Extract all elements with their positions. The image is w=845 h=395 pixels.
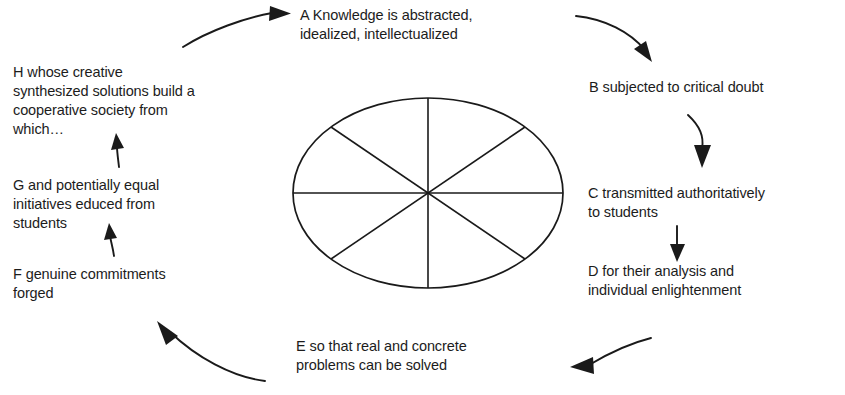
wheel-spoke-diagonal-nwse [331, 127, 525, 259]
node-label-h: H whose creative synthesized solutions b… [13, 63, 218, 140]
arrow-h-to-a [183, 6, 291, 47]
arrow-e-to-f-head [157, 321, 178, 345]
wheel-ellipse-outline [293, 98, 563, 288]
arrow-e-to-f [157, 321, 265, 381]
node-label-a: A Knowledge is abstracted, idealized, in… [300, 6, 570, 44]
node-label-d: D for their analysis and individual enli… [588, 262, 838, 300]
arrow-d-to-e-head [570, 357, 594, 374]
wheel-spoke-diagonal-nesw [331, 127, 525, 259]
arrow-h-to-a-head [269, 6, 291, 21]
eight-spoke-wheel [293, 98, 563, 288]
node-label-e: E so that real and concrete problems can… [296, 337, 561, 375]
node-label-g: G and potentially equal initiatives educ… [13, 176, 228, 233]
arrow-a-to-b-head [634, 41, 652, 62]
node-label-f: F genuine commitments forged [13, 265, 248, 303]
arrow-a-to-b [576, 16, 652, 62]
arrow-b-to-c-head [694, 145, 711, 168]
node-label-c: C transmitted authoritatively to student… [588, 184, 840, 222]
arrow-d-to-e [570, 338, 651, 374]
diagram-canvas: A Knowledge is abstracted, idealized, in… [0, 0, 845, 395]
arrow-c-to-d-head [670, 244, 685, 262]
arrow-c-to-d [670, 226, 685, 262]
node-label-b: B subjected to critical doubt [589, 78, 839, 97]
arrow-b-to-c [688, 115, 711, 168]
